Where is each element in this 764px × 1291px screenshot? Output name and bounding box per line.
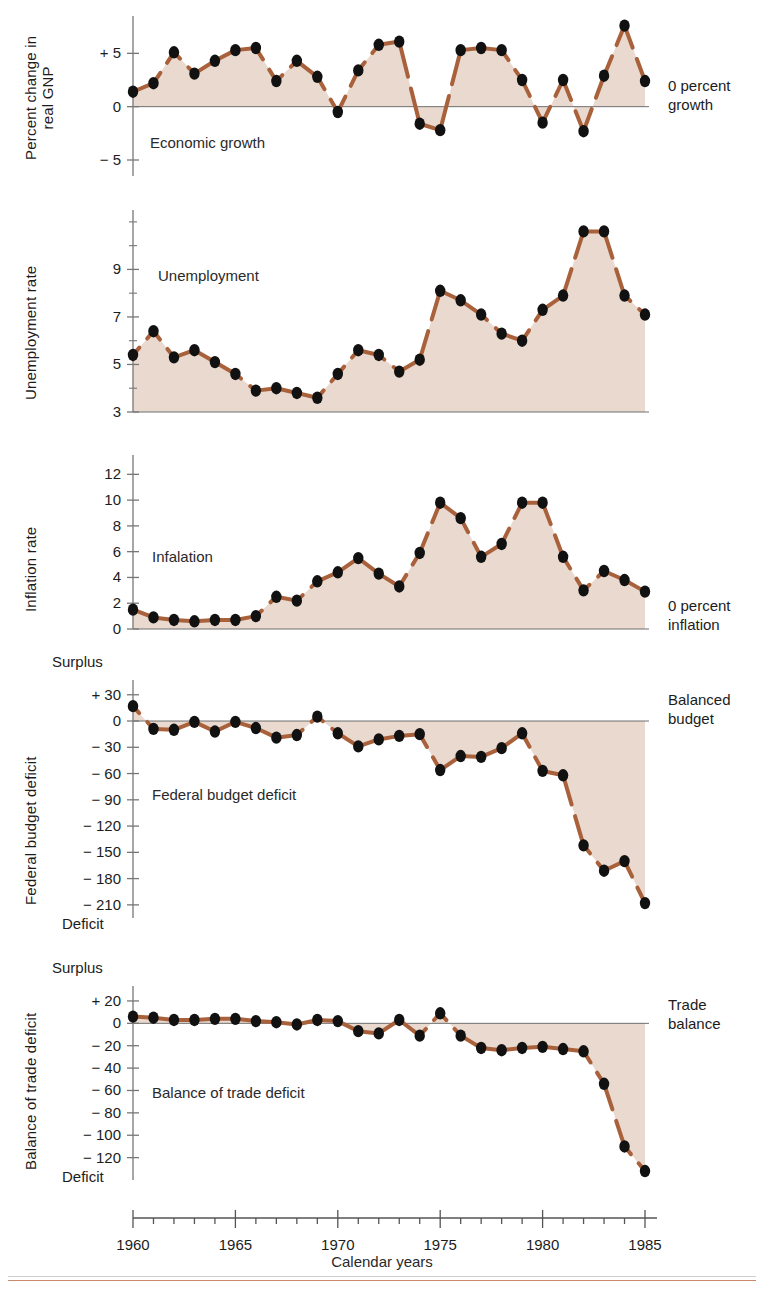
series-segment xyxy=(235,722,255,728)
data-point xyxy=(128,1010,138,1022)
series-segment xyxy=(481,315,501,334)
x-tick-label: 1965 xyxy=(219,1236,252,1253)
data-point xyxy=(517,727,527,739)
data-point xyxy=(578,1045,588,1057)
y-tick-label: − 60 xyxy=(91,765,121,782)
y-tick-label: 0 xyxy=(113,1014,121,1031)
data-point xyxy=(210,55,220,67)
data-point xyxy=(476,751,486,763)
data-point xyxy=(415,1029,425,1041)
data-point xyxy=(292,55,302,67)
series-segment xyxy=(256,1021,276,1022)
data-point xyxy=(312,710,322,722)
series-segment xyxy=(358,558,378,573)
data-point xyxy=(312,392,322,404)
y-tick-label: 0 xyxy=(113,98,121,115)
data-point xyxy=(292,594,302,606)
y-tick-label: 0 xyxy=(113,620,121,637)
data-point xyxy=(210,725,220,737)
data-point xyxy=(189,1014,199,1026)
series-segment xyxy=(174,620,194,621)
data-point xyxy=(517,496,527,508)
data-point xyxy=(353,344,363,356)
data-point xyxy=(374,349,384,361)
series-segment xyxy=(461,300,481,314)
data-point xyxy=(640,897,650,909)
data-point xyxy=(558,289,568,301)
data-point xyxy=(333,566,343,578)
y-tick-label: − 20 xyxy=(91,1037,121,1054)
x-tick-label: 1960 xyxy=(116,1236,149,1253)
data-point xyxy=(271,382,281,394)
x-tick-label: 1980 xyxy=(526,1236,559,1253)
annotation-economic-growth: 0 percentgrowth xyxy=(668,76,731,114)
series-segment xyxy=(399,553,419,587)
data-point xyxy=(537,116,547,128)
y-tick-label: − 120 xyxy=(83,817,121,834)
series-segment xyxy=(276,61,296,81)
data-point xyxy=(599,70,609,82)
y-tick-label: − 40 xyxy=(91,1059,121,1076)
data-point xyxy=(496,1044,506,1056)
series-segment xyxy=(563,80,583,131)
data-point xyxy=(476,308,486,320)
data-point xyxy=(455,750,465,762)
series-segment xyxy=(481,544,501,557)
x-tick-label: 1985 xyxy=(628,1236,661,1253)
footer-rule xyxy=(8,1280,756,1281)
plot-economic-growth: − 50+ 5Economic growth xyxy=(0,0,764,1291)
data-point xyxy=(374,39,384,51)
series-segment xyxy=(502,50,522,80)
series-segment xyxy=(604,1084,624,1147)
data-point xyxy=(640,585,650,597)
data-point xyxy=(189,716,199,728)
series-segment xyxy=(317,717,337,734)
data-point xyxy=(640,1165,650,1177)
data-point xyxy=(230,716,240,728)
series-segment xyxy=(194,61,214,74)
x-tick-label: 1970 xyxy=(321,1236,354,1253)
data-point xyxy=(599,225,609,237)
y-tick-label: + 5 xyxy=(100,44,121,61)
series-segment xyxy=(604,26,624,76)
footer-rule-light xyxy=(8,1276,756,1277)
series-segment xyxy=(461,518,481,557)
chart-inline-title: Economic growth xyxy=(150,134,265,151)
series-segment xyxy=(563,557,583,591)
data-point xyxy=(128,349,138,361)
data-point xyxy=(455,512,465,524)
data-point xyxy=(292,1018,302,1030)
series-segment xyxy=(133,1017,153,1018)
data-point xyxy=(333,106,343,118)
series-segment xyxy=(543,80,563,123)
series-segment xyxy=(256,728,276,738)
axis-caption-surplus: Surplus xyxy=(52,653,103,670)
series-segment xyxy=(502,503,522,544)
chart-inline-title: Unemployment xyxy=(158,267,260,284)
y-tick-label: 8 xyxy=(113,517,121,534)
data-point xyxy=(292,729,302,741)
series-segment xyxy=(440,50,460,130)
data-point xyxy=(374,733,384,745)
series-segment xyxy=(194,1019,214,1020)
series-segment xyxy=(194,350,214,362)
figure-root: Percent change inreal GNP− 50+ 5Economic… xyxy=(0,0,764,1291)
series-segment xyxy=(256,597,276,616)
data-point xyxy=(394,580,404,592)
data-point xyxy=(435,124,445,136)
data-point xyxy=(455,44,465,56)
data-point xyxy=(578,584,588,596)
annotation-balance-of-trade-deficit: Tradebalance xyxy=(668,995,721,1033)
axis-caption-deficit: Deficit xyxy=(62,1168,104,1185)
y-tick-label: 4 xyxy=(113,568,121,585)
series-segment xyxy=(256,48,276,81)
axis-caption-surplus: Surplus xyxy=(52,959,103,976)
data-point xyxy=(169,46,179,58)
data-point xyxy=(558,1043,568,1055)
data-point xyxy=(230,614,240,626)
series-segment xyxy=(502,733,522,748)
data-point xyxy=(251,722,261,734)
series-segment xyxy=(153,617,173,620)
series-segment xyxy=(481,1048,501,1050)
y-tick-label: − 90 xyxy=(91,791,121,808)
